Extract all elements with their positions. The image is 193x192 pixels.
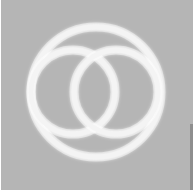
- image-frame: Three glowing white rings on a gray back…: [0, 0, 193, 192]
- outer-ring: [31, 27, 161, 157]
- rings-graphic: [0, 0, 193, 192]
